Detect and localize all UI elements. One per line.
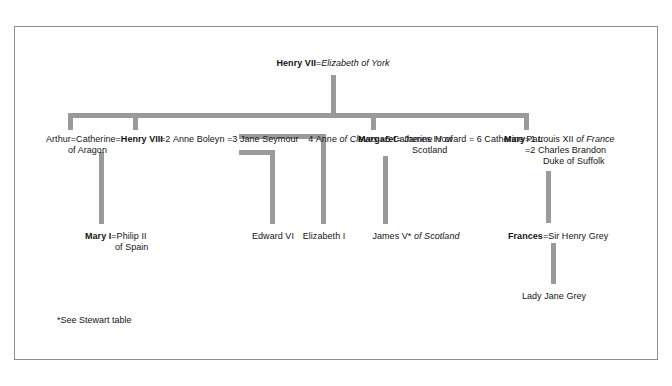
margaret-equals: = <box>396 134 401 144</box>
elizabeth1-name: Elizabeth I <box>303 231 346 241</box>
james4-of: of <box>445 134 453 144</box>
wife-6-number: 6 <box>477 134 482 144</box>
wife-row-3: =3 Jane Seymour <box>227 134 301 144</box>
connector-frances-to-ladyjane <box>551 243 556 284</box>
husband2-number: 2 <box>530 145 535 155</box>
node-mary1: Mary I=Philip II <box>85 231 147 243</box>
connector-drop-arthur <box>68 113 73 130</box>
frances-spouse: Sir Henry Grey <box>548 231 608 241</box>
diagram-frame <box>14 26 658 360</box>
frances-name: Frances <box>508 231 543 241</box>
node-mary1-line2: of Spain <box>115 242 148 254</box>
node-james5: James V* of Scotland <box>372 231 459 243</box>
connector-drop-mary-tudor <box>524 113 529 130</box>
node-edward6: Edward VI <box>252 231 294 243</box>
diagram-canvas: Henry VII=Elizabeth of York Arthur=Cathe… <box>0 0 672 386</box>
node-mary-tudor-husband2: =2 Charles Brandon <box>525 145 606 157</box>
node-arthur-catherine-henry8: Arthur=Catherine=Henry VIII <box>46 134 163 146</box>
husband1-plain: Louis XII <box>538 134 576 144</box>
node-margaret: Margaret= James IV of <box>358 134 452 146</box>
connector-drop-henry8 <box>133 113 138 130</box>
husband1-number: 1 <box>530 134 535 144</box>
node-catherine-aragon-line2: of Aragon <box>68 145 107 157</box>
connector-drop-margaret <box>371 113 376 130</box>
wife-4-label: Anne <box>316 134 340 144</box>
wife-2-number: 2 <box>165 134 170 144</box>
connector-aragon-to-mary1 <box>99 152 104 224</box>
catherine-aragon-line2: of Aragon <box>68 145 107 155</box>
james4-scotland: Scotland <box>412 145 447 155</box>
connector-boleyn-to-elizabeth1 <box>321 134 326 224</box>
wife-2-label: Anne Boleyn <box>173 134 225 144</box>
connector-henry7-drop <box>331 75 336 115</box>
wife-6-marker: = <box>469 134 474 144</box>
connector-seymour-to-edward6 <box>270 150 275 224</box>
connector-brandon-to-frances <box>546 171 551 223</box>
lady-jane-grey-name: Lady Jane Grey <box>522 291 586 301</box>
mary1-name: Mary I <box>85 231 111 241</box>
wife-row-2: =2 Anne Boleyn <box>160 134 227 144</box>
james5-of-scotland: of Scotland <box>414 231 460 241</box>
mary-tudor-row1: Mary=1 Louis XII of France <box>504 134 615 144</box>
node-henry8-wives: =2 Anne Boleyn =3 Jane Seymour 4 Anne of… <box>160 134 544 146</box>
henry8-name: Henry VIII <box>121 134 163 144</box>
footnote-stewart-table: *See Stewart table <box>57 315 132 325</box>
node-margaret-line2: Scotland <box>412 145 447 157</box>
husband1-italic: of France <box>576 134 614 144</box>
margaret-name: Margaret <box>358 134 396 144</box>
node-lady-jane-grey: Lady Jane Grey <box>522 291 586 303</box>
wife-3-label: Jane Seymour <box>240 134 299 144</box>
philip2-line1: Philip II <box>117 231 147 241</box>
wife-3-number: 3 <box>232 134 237 144</box>
node-henry7: Henry VII=Elizabeth of York <box>277 58 390 70</box>
wife-4-number: 4 <box>308 134 313 144</box>
philip2-of-spain: of Spain <box>115 242 148 252</box>
node-frances: Frances=Sir Henry Grey <box>508 231 608 243</box>
node-mary-tudor: Mary=1 Louis XII of France <box>504 134 615 146</box>
james5-name: James V* <box>372 231 411 241</box>
catherine-aragon-line1: Catherine <box>76 134 115 144</box>
mary-tudor-name: Mary <box>504 134 525 144</box>
footnote-text: *See Stewart table <box>57 315 132 325</box>
connector-margaret-to-james5 <box>383 156 388 224</box>
james4-plain: James IV <box>404 134 444 144</box>
node-mary-tudor-husband2-title: Duke of Suffolk <box>543 156 605 168</box>
henry7-name: Henry VII <box>277 58 316 68</box>
edward6-name: Edward VI <box>252 231 294 241</box>
henry7-spouse: Elizabeth of York <box>321 58 389 68</box>
husband2-plain: Charles Brandon <box>538 145 606 155</box>
arthur-name: Arthur <box>46 134 71 144</box>
husband2-title: Duke of Suffolk <box>543 156 605 166</box>
node-elizabeth1: Elizabeth I <box>303 231 346 243</box>
